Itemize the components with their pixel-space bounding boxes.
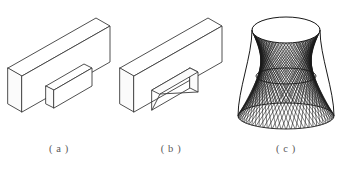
- panel-a-caption: ( a ): [0, 142, 118, 156]
- plate-left-face: [8, 68, 22, 112]
- solid-model-hyperboloid: [228, 8, 344, 136]
- panel-b-caption: ( b ): [112, 142, 230, 156]
- boss-left-face: [46, 86, 54, 108]
- panel-c: ( c ): [228, 0, 344, 178]
- plate-left-face: [120, 68, 134, 112]
- solid-model-plate-with-boss: [0, 8, 118, 136]
- top-rim-ellipse: [252, 17, 320, 43]
- panel-c-caption: ( c ): [228, 142, 344, 156]
- solid-model-plate-with-hole: [112, 8, 230, 136]
- figure-root: ( a ) ( b ): [0, 0, 344, 178]
- panel-b: ( b ): [112, 0, 230, 178]
- panel-a: ( a ): [0, 0, 118, 178]
